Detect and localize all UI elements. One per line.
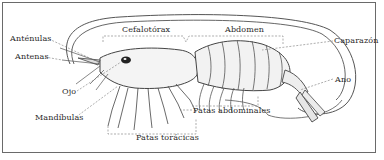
eye-shape xyxy=(121,57,131,64)
cephalothorax-body xyxy=(100,48,198,88)
label-antenas: Antenas xyxy=(15,52,49,61)
label-ojo: Ojo xyxy=(62,87,76,96)
label-ano: Ano xyxy=(335,75,351,84)
label-patas-toracicas: Patas torácicas xyxy=(136,133,199,142)
label-antenulas: Anténulas xyxy=(10,34,52,43)
label-patas-abdominales: Patas abdominales xyxy=(193,106,270,115)
thoracic-legs xyxy=(108,84,196,130)
label-abdomen: Abdomen xyxy=(225,25,264,34)
label-mandibulas: Mandíbulas xyxy=(35,113,84,122)
label-caparazon: Caparazón xyxy=(334,36,378,45)
label-cefalotorax: Cefalotórax xyxy=(122,25,170,34)
